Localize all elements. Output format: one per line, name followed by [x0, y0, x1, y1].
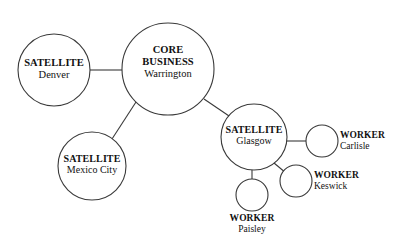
node-circle-carlisle[interactable] [306, 125, 338, 157]
edge-warrington-glasgow [204, 99, 232, 118]
edge-warrington-mexico-city [112, 102, 136, 139]
node-circle-mexico-city[interactable] [58, 132, 126, 200]
network-diagram: SATELLITE Denver CORE BUSINESS Warringto… [0, 0, 399, 249]
node-circle-glasgow[interactable] [221, 104, 287, 170]
node-circle-warrington[interactable] [122, 23, 214, 115]
node-circle-paisley[interactable] [236, 179, 268, 211]
diagram-canvas [0, 0, 399, 249]
node-circle-keswick[interactable] [280, 165, 312, 197]
node-circle-group [18, 23, 338, 211]
node-circle-denver[interactable] [18, 34, 90, 106]
